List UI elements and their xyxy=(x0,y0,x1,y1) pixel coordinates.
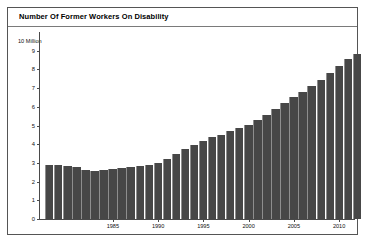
y-axis-tick-mark xyxy=(37,107,39,108)
bar xyxy=(244,125,252,219)
bar xyxy=(154,163,162,219)
y-axis-tick-label: 7 xyxy=(32,85,35,91)
y-axis-tick-label: 2 xyxy=(32,179,35,185)
bar xyxy=(72,167,80,219)
y-axis-tick-mark xyxy=(37,51,39,52)
bar xyxy=(90,171,98,219)
bar xyxy=(217,135,225,219)
bar xyxy=(335,66,343,219)
x-axis-tick-mark xyxy=(113,219,114,222)
y-axis-tick-mark xyxy=(37,163,39,164)
bar xyxy=(271,109,279,219)
bar xyxy=(226,131,234,219)
y-axis-tick-mark xyxy=(37,88,39,89)
y-axis-tick-label: 0 xyxy=(32,216,35,222)
x-axis-tick-label: 1995 xyxy=(197,223,209,229)
bar xyxy=(45,165,53,219)
bar xyxy=(181,149,189,219)
y-axis-tick-mark xyxy=(37,126,39,127)
plot-area: 0123456789 198519901995200020052010 xyxy=(39,32,355,220)
y-axis-tick-label: 3 xyxy=(32,160,35,166)
x-axis-tick-mark xyxy=(158,219,159,222)
x-axis-tick-label: 1985 xyxy=(107,223,119,229)
x-axis-tick-label: 1990 xyxy=(152,223,164,229)
x-axis-tick-label: 2010 xyxy=(333,223,345,229)
bar xyxy=(172,154,180,219)
x-axis-line xyxy=(39,219,355,220)
bar xyxy=(163,159,171,219)
bar xyxy=(54,165,62,219)
x-axis-tick-mark xyxy=(339,219,340,222)
x-axis-tick-label: 2000 xyxy=(242,223,254,229)
y-axis-tick-label: 4 xyxy=(32,141,35,147)
bar xyxy=(145,165,153,219)
x-axis-tick-label: 2005 xyxy=(288,223,300,229)
bar xyxy=(326,73,334,219)
bar xyxy=(235,128,243,219)
y-axis-line xyxy=(39,32,40,220)
bar xyxy=(289,97,297,219)
bar xyxy=(199,141,207,219)
y-axis-tick-label: 9 xyxy=(32,48,35,54)
y-axis-tick-mark xyxy=(37,219,39,220)
y-axis-tick-label: 1 xyxy=(32,197,35,203)
bar xyxy=(353,54,361,219)
bar xyxy=(81,170,89,219)
bar xyxy=(108,169,116,219)
y-axis-tick-mark xyxy=(37,182,39,183)
bar xyxy=(317,80,325,219)
bar xyxy=(99,170,107,219)
bar xyxy=(136,166,144,219)
y-axis-tick-mark xyxy=(37,69,39,70)
bar xyxy=(280,103,288,219)
bar xyxy=(63,166,71,219)
x-axis-tick-mark xyxy=(294,219,295,222)
x-axis-tick-mark xyxy=(203,219,204,222)
bar xyxy=(117,168,125,219)
bar xyxy=(344,59,352,219)
y-axis-tick-mark xyxy=(37,144,39,145)
bar xyxy=(253,120,261,219)
title-bar: Number Of Former Workers On Disability xyxy=(8,8,357,27)
bar xyxy=(126,167,134,219)
y-axis-tick-label: 5 xyxy=(32,123,35,129)
bar xyxy=(190,145,198,219)
x-axis-tick-mark xyxy=(249,219,250,222)
y-axis-tick-label: 8 xyxy=(32,66,35,72)
bar xyxy=(262,115,270,219)
y-axis-tick-label: 6 xyxy=(32,104,35,110)
bar xyxy=(208,137,216,219)
bar xyxy=(307,86,315,219)
bar xyxy=(298,92,306,219)
y-axis-tick-mark xyxy=(37,200,39,201)
chart-figure: Number Of Former Workers On Disability 1… xyxy=(7,7,358,235)
page-title: Number Of Former Workers On Disability xyxy=(19,12,169,21)
